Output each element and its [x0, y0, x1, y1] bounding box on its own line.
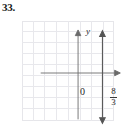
- problem-number: 33.: [2, 1, 15, 13]
- coordinate-graph: y x 0 8 3: [22, 21, 114, 121]
- x-intercept-label: 8 3: [108, 87, 119, 107]
- x-axis: [41, 70, 121, 76]
- y-axis-label: y: [86, 27, 90, 36]
- fraction-numerator: 8: [108, 87, 119, 97]
- figure-container: 33.: [0, 0, 126, 128]
- axes-and-plot: [22, 21, 126, 125]
- plot-line-vertical: [100, 31, 106, 124]
- y-axis: [75, 30, 81, 119]
- origin-label: 0: [80, 87, 85, 97]
- fraction-denominator: 3: [108, 98, 119, 108]
